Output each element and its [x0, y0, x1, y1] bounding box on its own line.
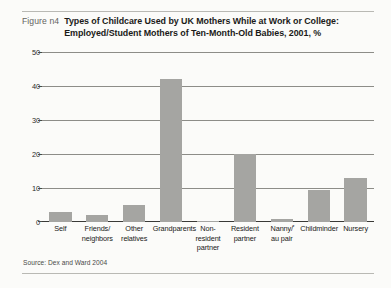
x-label-grandparents: Grandparents [153, 224, 190, 234]
x-label-childminder: Childminder [300, 224, 337, 234]
y-axis-tickmark [38, 120, 42, 121]
figure-title: Types of Childcare Used by UK Mothers Wh… [64, 15, 339, 40]
bar-resident-partner [234, 154, 256, 222]
x-label-resident-partner: Residentpartner [226, 224, 263, 243]
x-label-other-relatives: Otherrelatives [116, 224, 153, 243]
y-axis-tick-labels: 01020304050 [22, 52, 40, 222]
bar-non-resident-partner [197, 221, 219, 222]
y-axis-tickmark [38, 188, 42, 189]
bar-nanny-au-pair [271, 219, 293, 222]
source-note: Source: Dex and Ward 2004 [23, 259, 107, 266]
bar-grandparents [160, 79, 182, 222]
x-label-friends-neighbors: Friends/neighbors [79, 224, 116, 243]
y-axis-tickmark [38, 52, 42, 53]
bottom-rule [22, 273, 374, 274]
figure-card: Figure n4 Types of Childcare Used by UK … [0, 0, 391, 288]
y-axis-tickmark [38, 86, 42, 87]
bar-childminder [308, 190, 330, 222]
x-label-nursery: Nursery [337, 224, 374, 234]
figure-title-line2: Employed/Student Mothers of Ten-Month-Ol… [64, 27, 339, 39]
bar-nursery [344, 178, 366, 222]
x-label-nanny-au-pair: Nanny/au pair* [263, 224, 300, 243]
chart-plot-area: 01020304050 [22, 52, 374, 222]
figure-label: Figure n4 [22, 15, 64, 26]
y-axis-tickmark [38, 221, 42, 222]
chart-bars [42, 52, 374, 222]
x-label-self: Self [42, 224, 79, 234]
x-label-non-resident-partner: Non-residentpartner [190, 224, 227, 253]
y-axis-tick-0: 0 [22, 218, 40, 227]
bar-friends-neighbors [86, 215, 108, 222]
bar-other-relatives [123, 205, 145, 222]
bar-self [49, 212, 71, 222]
figure-title-line1: Types of Childcare Used by UK Mothers Wh… [64, 16, 339, 26]
figure-header: Figure n4 Types of Childcare Used by UK … [22, 15, 374, 40]
footnote-marker: * [292, 223, 294, 233]
x-axis-category-labels: SelfFriends/neighborsOtherrelativesGrand… [42, 224, 374, 254]
y-axis-tickmark [38, 154, 42, 155]
top-rule [22, 11, 374, 12]
